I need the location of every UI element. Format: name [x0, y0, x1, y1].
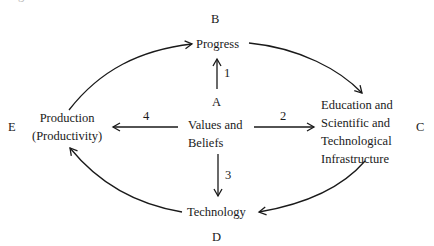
arrow-technology-to-production	[70, 148, 182, 212]
node-education-line-3: Technological	[321, 132, 393, 150]
arrow-progress-to-education	[249, 43, 362, 93]
node-education-line-4: Infrastructure	[321, 150, 393, 168]
node-technology: Technology	[187, 203, 246, 221]
node-values-line-1: Values and	[188, 116, 243, 134]
node-progress: Progress	[196, 35, 239, 53]
node-letter-c: C	[416, 118, 424, 136]
values-cycle-diagram: g B Progress 1 A Values and Beliefs 4	[0, 0, 434, 246]
node-production-line-2: (Productivity)	[32, 127, 102, 145]
arrow-label-2: 2	[280, 107, 286, 125]
node-letter-e: E	[8, 118, 16, 136]
arrow-label-3: 3	[225, 166, 231, 184]
node-values-and-beliefs: Values and Beliefs	[188, 116, 243, 152]
node-production-line-1: Production	[32, 109, 102, 127]
arrow-production-to-progress	[69, 44, 192, 110]
arrow-education-to-technology	[259, 161, 365, 212]
node-education-infrastructure: Education and Scientific and Technologic…	[321, 96, 393, 168]
node-letter-d: D	[212, 228, 221, 246]
node-production: Production (Productivity)	[32, 109, 102, 145]
arrow-label-1: 1	[224, 64, 230, 82]
node-letter-b: B	[211, 10, 219, 28]
node-education-line-1: Education and	[321, 96, 393, 114]
node-education-line-2: Scientific and	[321, 114, 393, 132]
node-values-line-2: Beliefs	[188, 134, 243, 152]
node-letter-a: A	[212, 93, 221, 111]
arrow-label-4: 4	[143, 107, 149, 125]
